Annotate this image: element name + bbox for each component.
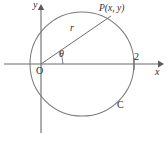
theta-angle-label: θ [59,49,64,59]
y-axis-arrow-icon [38,4,44,10]
x-axis-label: x [155,67,159,77]
tick-label-two: 2 [134,52,139,62]
point-p-label: P(x, y) [99,4,124,14]
figure-canvas [0,0,168,144]
radius-label: r [70,23,74,33]
curve-label-c: C [117,100,124,110]
y-axis-label: y [33,0,37,10]
radius-vector-line [41,16,111,64]
origin-label: O [36,66,43,76]
polar-circle-figure: y x O θ r P(x, y) 2 C [0,0,168,144]
